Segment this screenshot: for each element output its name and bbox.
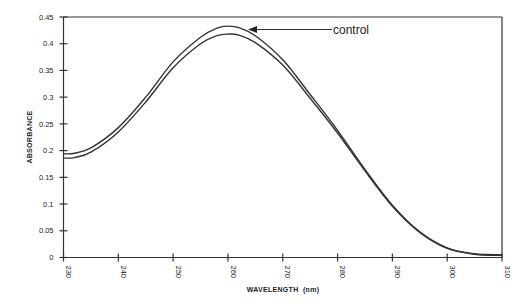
y-tick-label: 0.4 xyxy=(43,39,53,48)
plot-frame xyxy=(64,17,503,258)
x-tick-label: 270 xyxy=(283,266,292,279)
series-line-sample xyxy=(64,34,503,255)
y-tick-label: 0.1 xyxy=(43,200,53,209)
series-group xyxy=(64,26,503,255)
x-tick-label: 290 xyxy=(393,266,402,279)
y-tick-label: 0.3 xyxy=(43,93,53,102)
x-tick-label: 280 xyxy=(338,266,347,279)
y-tick-label: 0.25 xyxy=(39,120,54,129)
x-tick-label: 230 xyxy=(64,266,73,279)
annotation-label-control: control xyxy=(333,23,369,37)
series-line-control xyxy=(64,26,503,255)
x-tick-label: 310 xyxy=(503,266,512,279)
absorbance-chart: 00.050.10.150.20.250.30.350.40.45 230240… xyxy=(0,0,530,307)
y-tick-label: 0.35 xyxy=(39,66,54,75)
y-tick-label: 0 xyxy=(49,253,53,262)
x-tick-label: 260 xyxy=(229,266,238,279)
y-tick-label: 0.2 xyxy=(43,146,53,155)
annotation-group: control xyxy=(248,23,369,37)
x-axis-title: WAVELENGTH (nm) xyxy=(247,286,320,294)
x-tick-label: 300 xyxy=(448,266,457,279)
x-tick-label: 240 xyxy=(119,266,128,279)
y-tick-label: 0.05 xyxy=(39,226,54,235)
y-tick-label: 0.45 xyxy=(39,13,54,22)
x-tick-label: 250 xyxy=(174,266,183,279)
y-tick-label: 0.15 xyxy=(39,173,54,182)
y-axis-title: ABSORBANCE xyxy=(26,110,33,163)
